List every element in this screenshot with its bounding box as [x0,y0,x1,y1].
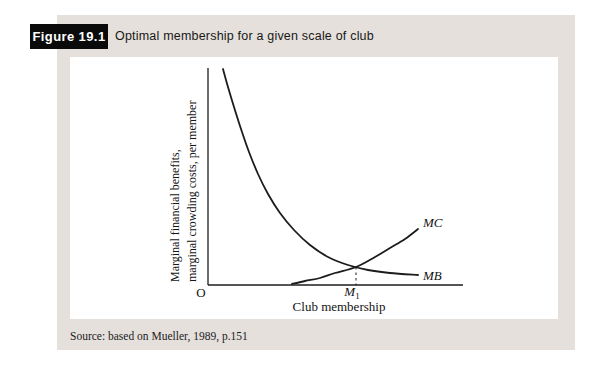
origin-label: O [196,285,205,300]
mc-curve [292,229,418,284]
x-axis-title: Club membership [293,299,386,314]
mb-curve [223,69,418,275]
mb-curve-label: MB [422,268,442,283]
figure-number-box: Figure 19.1 [30,24,108,49]
figure-title: Optimal membership for a given scale of … [115,29,374,43]
figure-number-label: Figure 19.1 [32,29,105,44]
source-citation: Source: based on Mueller, 1989, p.151 [70,330,248,342]
y-axis-title-line1: Marginal financial benefits, [168,149,182,282]
chart-area: MC MB O M1 Club membership Marginal fina… [70,57,558,319]
curves [223,69,418,284]
club-membership-chart: MC MB O M1 Club membership Marginal fina… [70,57,558,319]
y-axis-title-line2: marginal crowding costs, per member [185,101,199,282]
mc-curve-label: MC [422,215,443,230]
